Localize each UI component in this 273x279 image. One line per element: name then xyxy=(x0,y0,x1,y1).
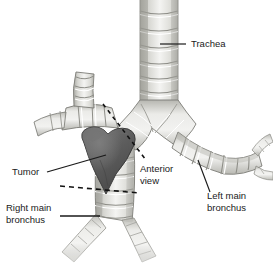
label-anterior-view-line1: Anterior xyxy=(140,163,173,174)
label-left-main-bronchus: Left main bronchus xyxy=(207,190,246,213)
label-left-main-bronchus-line1: Left main xyxy=(207,190,246,201)
label-right-main-bronchus-line1: Right main xyxy=(6,202,51,213)
label-right-main-bronchus: Right main bronchus xyxy=(6,202,51,225)
label-anterior-view-line2: view xyxy=(140,175,159,186)
label-tumor: Tumor xyxy=(12,166,39,177)
anatomy-figure: Trachea Tumor Anterior view Right main b… xyxy=(0,0,273,279)
label-left-main-bronchus-line2: bronchus xyxy=(207,202,246,213)
anatomy-illustration: Trachea Tumor Anterior view Right main b… xyxy=(0,0,273,279)
trachea xyxy=(140,0,178,104)
label-right-main-bronchus-line2: bronchus xyxy=(6,214,45,225)
label-trachea: Trachea xyxy=(191,38,226,49)
